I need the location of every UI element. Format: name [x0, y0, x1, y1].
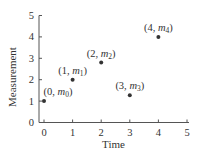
x-tick-label: 0 — [41, 127, 46, 138]
data-point-label-2: (2, m2) — [87, 48, 116, 61]
data-point-0 — [42, 99, 46, 103]
data-point-1 — [71, 78, 75, 82]
scatter-chart: 012345012345 (0, m0)(1, m1)(2, m2)(3, m3… — [0, 0, 203, 158]
x-tick-label: 5 — [184, 127, 189, 138]
data-point-label-4: (4, m4) — [144, 22, 173, 35]
x-axis-label: Time — [102, 138, 125, 150]
y-tick-label: 0 — [29, 117, 34, 128]
data-points: (0, m0)(1, m1)(2, m2)(3, m3)(4, m4) — [42, 22, 173, 103]
x-tick-label: 2 — [99, 127, 104, 138]
data-point-3 — [128, 93, 132, 97]
data-point-label-0: (0, m0) — [44, 86, 73, 99]
y-tick-label: 3 — [29, 53, 34, 64]
x-tick-label: 3 — [127, 127, 132, 138]
y-tick-label: 5 — [29, 10, 34, 21]
y-axis-label: Measurement — [6, 47, 18, 107]
data-point-label-1: (1, m1) — [58, 65, 87, 78]
y-tick-label: 2 — [29, 74, 34, 85]
x-tick-label: 1 — [70, 127, 75, 138]
data-point-2 — [99, 61, 103, 65]
data-point-label-3: (3, m3) — [115, 80, 144, 93]
data-point-4 — [156, 35, 160, 39]
x-tick-label: 4 — [156, 127, 162, 138]
y-tick-label: 1 — [29, 96, 34, 107]
y-tick-label: 4 — [29, 31, 35, 42]
